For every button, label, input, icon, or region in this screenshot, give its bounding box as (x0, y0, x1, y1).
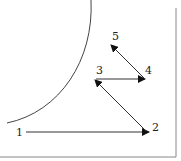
node-label-1: 1 (16, 126, 23, 139)
node-label-3: 3 (96, 64, 103, 77)
node-label-4: 4 (145, 64, 152, 77)
node-label-5: 5 (112, 30, 119, 43)
diagram-canvas: 1 2 3 4 5 (0, 0, 181, 161)
curved-boundary (7, 0, 91, 123)
arrow-2-to-3 (95, 80, 146, 131)
frame-border (0, 8, 176, 157)
node-label-2: 2 (152, 121, 159, 134)
arrow-4-to-5 (111, 45, 145, 79)
